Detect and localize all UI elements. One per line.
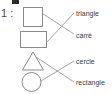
- triangle-shape[interactable]: [23, 52, 44, 70]
- label-carre[interactable]: carré: [76, 32, 92, 40]
- label-triangle[interactable]: triangle: [76, 10, 99, 18]
- square-shape[interactable]: [24, 8, 43, 27]
- connector-rectangle-to-triangle[interactable]: [47, 13, 74, 42]
- label-cercle[interactable]: cercle: [76, 58, 95, 66]
- worksheet-exercise: 1 : triangle carré cercle rectangle: [0, 0, 112, 94]
- circle-shape[interactable]: [22, 73, 41, 92]
- label-rectangle[interactable]: rectangle: [76, 79, 105, 87]
- connector-square-to-carre[interactable]: [43, 14, 74, 34]
- rectangle-shape[interactable]: [21, 32, 47, 48]
